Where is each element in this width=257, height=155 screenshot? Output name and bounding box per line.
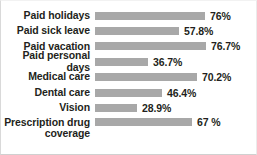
bar-value-paid-sick-leave: 57.8% bbox=[179, 25, 213, 37]
bar-value-prescription-drug-coverage: 67 % bbox=[192, 116, 221, 128]
bar-track: 67 % bbox=[95, 116, 256, 129]
bar-row: Medical care 70.2% bbox=[1, 70, 256, 85]
bar-medical-care bbox=[95, 73, 197, 81]
bar-row: Dental care 46.4% bbox=[1, 85, 256, 100]
bar-chart-figure: Paid holidays 76% Paid sick leave 57.8% … bbox=[0, 0, 257, 155]
bar-track: 76% bbox=[95, 8, 256, 23]
chart-plot-area: Paid holidays 76% Paid sick leave 57.8% … bbox=[1, 8, 256, 154]
bar-value-paid-personal-days: 36.7% bbox=[148, 56, 182, 68]
bar-paid-sick-leave bbox=[95, 27, 179, 35]
bar-track: 36.7% bbox=[95, 54, 256, 69]
bar-track: 76.7% bbox=[95, 39, 256, 54]
bar-paid-holidays bbox=[95, 12, 205, 20]
bar-track: 70.2% bbox=[95, 70, 256, 85]
bar-row: Vision 28.9% bbox=[1, 100, 256, 115]
bar-track: 46.4% bbox=[95, 85, 256, 100]
category-label-dental-care: Dental care bbox=[1, 87, 95, 99]
category-label-paid-holidays: Paid holidays bbox=[1, 10, 95, 22]
category-label-vision: Vision bbox=[1, 102, 95, 114]
bar-row: Prescription drug coverage 67 % bbox=[1, 116, 256, 145]
category-label-paid-sick-leave: Paid sick leave bbox=[1, 25, 95, 37]
bar-value-medical-care: 70.2% bbox=[197, 71, 231, 83]
bar-paid-vacation bbox=[95, 42, 206, 50]
bar-dental-care bbox=[95, 89, 162, 97]
bar-value-vision: 28.9% bbox=[137, 102, 171, 114]
bar-paid-personal-days bbox=[95, 58, 148, 66]
bar-track: 28.9% bbox=[95, 100, 256, 115]
category-label-medical-care: Medical care bbox=[1, 71, 95, 83]
category-label-prescription-drug-coverage: Prescription drug coverage bbox=[1, 116, 95, 140]
bar-track: 57.8% bbox=[95, 23, 256, 38]
bar-value-paid-holidays: 76% bbox=[205, 10, 231, 22]
bar-row: Paid holidays 76% bbox=[1, 8, 256, 23]
bar-value-paid-vacation: 76.7% bbox=[206, 40, 240, 52]
bar-row: Paid sick leave 57.8% bbox=[1, 23, 256, 38]
bar-vision bbox=[95, 104, 137, 112]
bar-value-dental-care: 46.4% bbox=[162, 87, 196, 99]
bar-row: Paid personal days 36.7% bbox=[1, 54, 256, 69]
bar-prescription-drug-coverage bbox=[95, 118, 192, 126]
